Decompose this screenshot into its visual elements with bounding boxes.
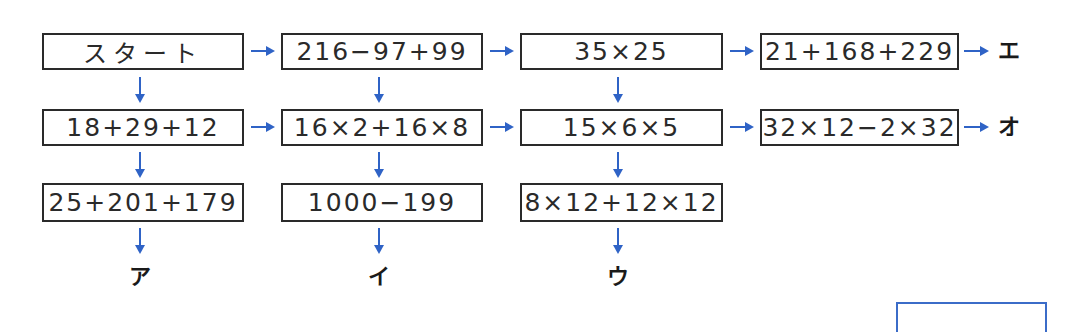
- flow-box-r2c2: 16×2+16×8: [281, 109, 483, 146]
- exit-label-e: エ: [998, 40, 1020, 62]
- arrow-down-icon: [373, 152, 385, 178]
- exit-label-o: オ: [998, 116, 1020, 138]
- flow-box-r1c4: 21+168+229: [760, 33, 959, 70]
- arrow-right-icon: [490, 117, 514, 137]
- answer-box[interactable]: [896, 302, 1047, 332]
- arrow-down-icon: [612, 228, 624, 254]
- arrow-down-icon: [373, 77, 385, 103]
- arrow-right-icon: [251, 41, 275, 61]
- flow-box-r1c3: 35×25: [520, 33, 723, 70]
- flow-box-r3c1: 25+201+179: [42, 183, 244, 222]
- arrow-down-icon: [134, 152, 146, 178]
- flow-box-start: スタート: [42, 33, 244, 70]
- arrow-down-icon: [612, 152, 624, 178]
- arrow-right-icon: [730, 117, 754, 137]
- arrow-down-icon: [373, 228, 385, 254]
- flow-box-r2c1: 18+29+12: [42, 109, 244, 146]
- arrow-right-icon: [490, 41, 514, 61]
- arrow-down-icon: [612, 77, 624, 103]
- arrow-right-icon: [964, 117, 989, 137]
- exit-label-a: ア: [129, 266, 151, 288]
- flow-box-r1c2: 216−97+99: [281, 33, 483, 70]
- flow-box-r2c4: 32×12−2×32: [760, 109, 959, 146]
- exit-label-u: ウ: [607, 266, 629, 288]
- flow-box-r2c3: 15×6×5: [520, 109, 723, 146]
- arrow-right-icon: [964, 41, 989, 61]
- exit-label-i: イ: [368, 266, 390, 288]
- arrow-down-icon: [134, 228, 146, 254]
- flow-box-r3c2: 1000−199: [281, 183, 483, 222]
- arrow-right-icon: [730, 41, 754, 61]
- flow-box-r3c3: 8×12+12×12: [520, 183, 723, 222]
- arrow-right-icon: [251, 117, 275, 137]
- arrow-down-icon: [134, 77, 146, 103]
